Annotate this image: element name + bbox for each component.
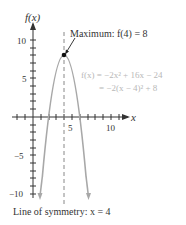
maximum-annotation: Maximum: f(4) = 8 xyxy=(70,28,148,40)
parabola-chart: f(x) x 10 5 −5 −10 5 10 Maximum: f(4) = … xyxy=(0,0,186,225)
pointer-arrow-icon xyxy=(65,50,69,55)
symmetry-annotation: Line of symmetry: x = 4 xyxy=(13,206,111,217)
y-tick-label-minus10: −10 xyxy=(9,189,24,199)
x-axis-arrow-icon xyxy=(122,114,130,120)
x-tick-label-10: 10 xyxy=(106,123,116,133)
equation-line-2: = −2(x − 4)² + 8 xyxy=(99,83,158,93)
left-tail-arrow-icon xyxy=(38,193,43,200)
y-axis-arrow-icon xyxy=(30,22,36,30)
equation-line-1: f(x) = −2x² + 16x − 24 xyxy=(81,70,163,80)
right-tail-arrow-icon xyxy=(86,193,91,200)
x-axis-label: x xyxy=(130,111,136,123)
y-tick-label-10: 10 xyxy=(17,36,27,46)
y-axis-label: f(x) xyxy=(25,11,41,24)
x-tick-label-5: 5 xyxy=(68,123,73,133)
y-tick-label-minus5: −5 xyxy=(14,151,24,161)
maximum-pointer xyxy=(67,38,76,52)
y-tick-label-5: 5 xyxy=(22,74,27,84)
